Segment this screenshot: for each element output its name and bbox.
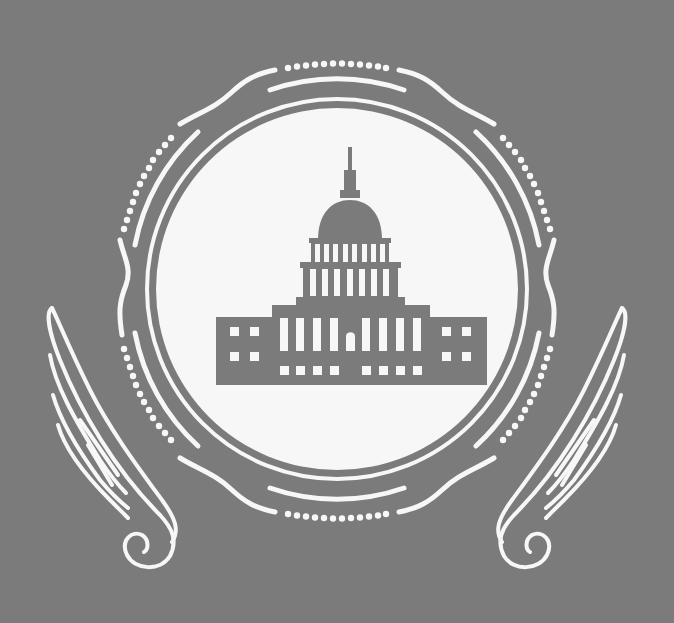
capitol-emblem	[0, 0, 674, 623]
